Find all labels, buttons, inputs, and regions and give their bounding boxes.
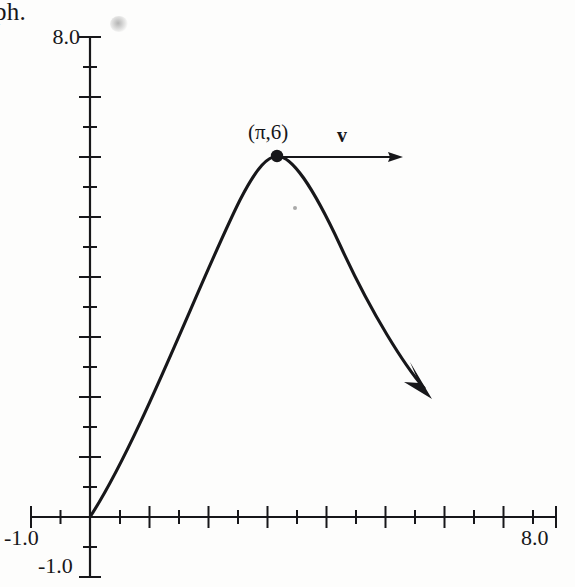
x-axis-left-label: -1.0: [4, 525, 39, 551]
paper-smudge-artifact: [110, 16, 128, 32]
velocity-vector: [279, 152, 403, 162]
caption-text-fragment: ph.: [0, 0, 26, 26]
figure-canvas: ph. 8.0 -1.0 -1.0 8.0 (π,6) v: [0, 0, 575, 587]
vertex-point-marker: [271, 150, 283, 162]
paper-speck-artifact: [293, 206, 297, 210]
vector-arrowhead: [388, 152, 403, 162]
trajectory-curve: [90, 156, 424, 517]
y-axis-bottom-label: -1.0: [38, 553, 73, 579]
x-axis-right-label: 8.0: [521, 525, 549, 551]
y-axis-top-label: 8.0: [28, 24, 80, 50]
velocity-vector-label: v: [337, 124, 347, 147]
axes-group: [31, 37, 557, 577]
vertex-point-label: (π,6): [248, 120, 288, 145]
coordinate-plot: [0, 0, 575, 587]
